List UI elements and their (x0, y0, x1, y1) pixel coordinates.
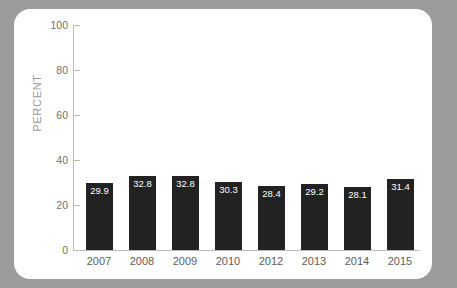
y-axis-tick-label: 60 (0, 110, 68, 121)
y-axis-tick-label: 40 (0, 155, 68, 166)
bar-group: 30.3 (207, 25, 249, 250)
x-axis-line (73, 250, 420, 251)
bar-chart: PERCENT 020406080100 29.932.832.830.328.… (0, 0, 457, 288)
bar[interactable]: 28.1 (344, 187, 371, 250)
x-axis-label: 2009 (164, 255, 206, 267)
y-axis-tick-label: 20 (0, 200, 68, 211)
y-axis-tick-label-text: 0 (38, 245, 68, 256)
bar-value-label: 32.8 (129, 179, 156, 189)
bar-value-label: 30.3 (215, 185, 242, 195)
bar-group: 29.9 (78, 25, 120, 250)
x-axis-label: 2010 (207, 255, 249, 267)
bar-group: 32.8 (164, 25, 206, 250)
y-axis-tick (73, 250, 80, 251)
bar-value-label: 31.4 (387, 182, 414, 192)
y-axis-tick-label: 100 (0, 20, 68, 31)
x-axis-label: 2014 (336, 255, 378, 267)
chart-screenshot: PERCENT 020406080100 29.932.832.830.328.… (0, 0, 457, 288)
bar-value-label: 28.4 (258, 189, 285, 199)
y-axis-tick-label-text: 40 (38, 155, 68, 166)
bar[interactable]: 30.3 (215, 182, 242, 250)
bar[interactable]: 32.8 (172, 176, 199, 250)
y-axis-tick-label: 80 (0, 65, 68, 76)
bar-value-label: 29.9 (86, 186, 113, 196)
x-axis-label: 2013 (293, 255, 335, 267)
bar-group: 28.4 (250, 25, 292, 250)
bar-group: 31.4 (379, 25, 421, 250)
y-axis-tick-label-text: 60 (38, 110, 68, 121)
bar-value-label: 29.2 (301, 187, 328, 197)
bar-value-label: 32.8 (172, 179, 199, 189)
x-axis-label: 2015 (379, 255, 421, 267)
bar-group: 29.2 (293, 25, 335, 250)
bar[interactable]: 29.2 (301, 184, 328, 250)
bar-group: 28.1 (336, 25, 378, 250)
bar-value-label: 28.1 (344, 190, 371, 200)
bar[interactable]: 32.8 (129, 176, 156, 250)
x-axis-label: 2012 (250, 255, 292, 267)
x-axis-label: 2007 (78, 255, 120, 267)
y-axis-tick-label: 0 (0, 245, 68, 256)
y-axis-tick-label-text: 80 (38, 65, 68, 76)
bar[interactable]: 28.4 (258, 186, 285, 250)
y-axis-tick-label-text: 20 (38, 200, 68, 211)
bar-group: 32.8 (121, 25, 163, 250)
bar[interactable]: 31.4 (387, 179, 414, 250)
y-axis-tick-label-text: 100 (38, 20, 68, 31)
plot-area: 29.932.832.830.328.429.228.131.4 (74, 25, 420, 250)
bar[interactable]: 29.9 (86, 183, 113, 250)
x-axis-label: 2008 (121, 255, 163, 267)
